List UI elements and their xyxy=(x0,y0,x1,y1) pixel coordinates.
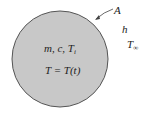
temperature-equation: T = T(t) xyxy=(45,65,80,76)
ambient-temperature-label: T∞ xyxy=(127,39,138,52)
heat-transfer-coefficient-label: h xyxy=(122,24,128,35)
mass-symbol: m xyxy=(44,42,52,54)
surface-area-label: A xyxy=(114,5,121,16)
lumped-body-diagram: m, c, Ti T = T(t) A h T∞ xyxy=(0,0,146,113)
arrow-head-icon xyxy=(95,15,100,20)
body-properties: m, c, Ti xyxy=(44,43,76,56)
ambient-temp-subscript: ∞ xyxy=(133,44,138,52)
initial-temp-subscript: i xyxy=(74,48,76,56)
diagram-graphics xyxy=(0,0,146,113)
solid-body-circle xyxy=(12,11,108,107)
